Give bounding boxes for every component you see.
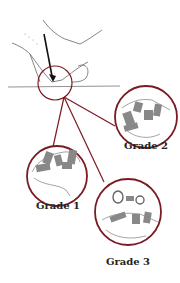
grade3-illustration xyxy=(95,179,161,245)
baseline xyxy=(8,86,120,87)
limb-sketch xyxy=(12,20,102,82)
dotted-path xyxy=(24,33,37,44)
grade2-label: Grade 2 xyxy=(124,140,168,151)
grade3-label: Grade 3 xyxy=(106,256,150,267)
focus-circle xyxy=(38,66,72,100)
grade1-illustration xyxy=(27,146,87,206)
grade2-illustration xyxy=(115,86,177,148)
grade1-label: Grade 1 xyxy=(36,200,80,211)
